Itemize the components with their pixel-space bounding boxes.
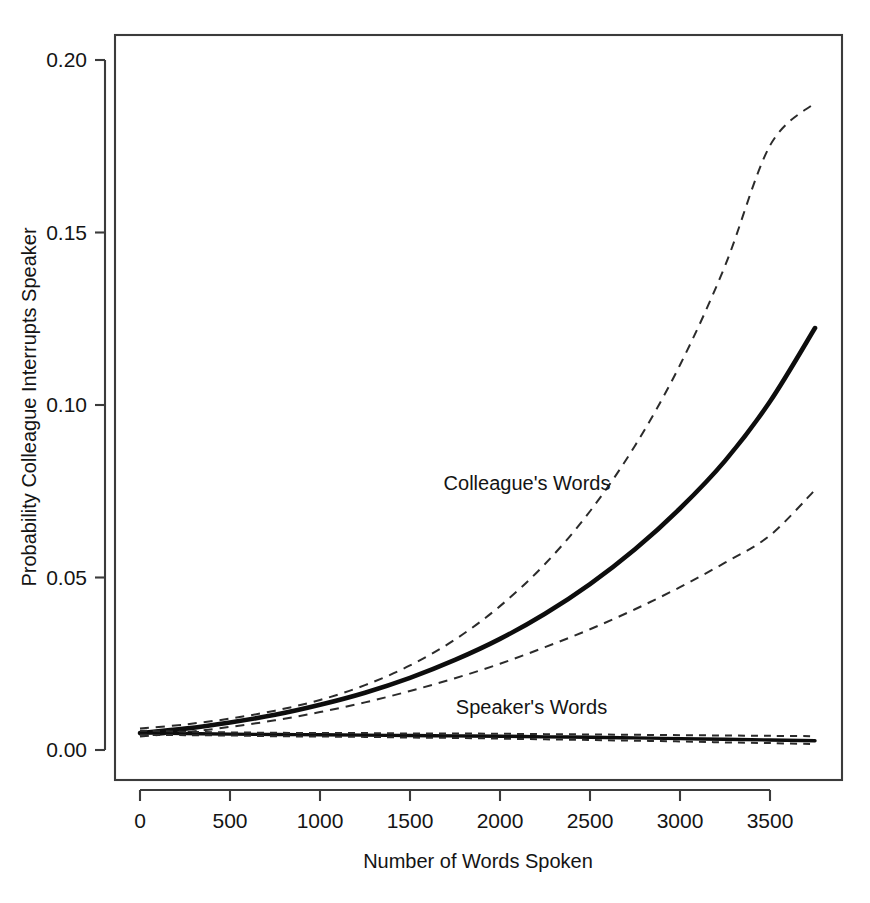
y-tick-label: 0.00 xyxy=(46,738,87,761)
line-chart: 0.000.050.100.150.20 0500100015002000250… xyxy=(0,0,870,903)
x-tick-label: 3500 xyxy=(747,809,794,832)
x-tick-label: 3000 xyxy=(657,809,704,832)
x-tick-label: 500 xyxy=(212,809,247,832)
y-tick-label: 0.10 xyxy=(46,393,87,416)
chart-background xyxy=(0,0,870,903)
y-tick-label: 0.20 xyxy=(46,48,87,71)
x-tick-label: 1500 xyxy=(387,809,434,832)
x-tick-label: 0 xyxy=(134,809,146,832)
y-axis-title: Probability Colleague Interrupts Speaker xyxy=(18,227,40,586)
series-annotation-label: Speaker's Words xyxy=(456,696,607,718)
y-tick-label: 0.15 xyxy=(46,221,87,244)
x-tick-label: 1000 xyxy=(297,809,344,832)
x-tick-label: 2500 xyxy=(567,809,614,832)
x-tick-label: 2000 xyxy=(477,809,524,832)
figure-container: 0.000.050.100.150.20 0500100015002000250… xyxy=(0,0,870,903)
y-tick-label: 0.05 xyxy=(46,566,87,589)
series-annotation-label: Colleague's Words xyxy=(444,472,611,494)
x-axis-title: Number of Words Spoken xyxy=(363,850,593,872)
